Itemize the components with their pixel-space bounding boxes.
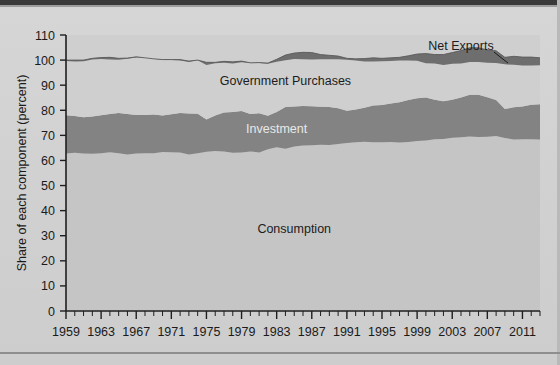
x-tick-label: 1995	[368, 325, 396, 339]
consumption-label: Consumption	[257, 222, 331, 236]
x-tick-label: 1999	[403, 325, 431, 339]
government-purchases-label: Government Purchases	[220, 74, 351, 88]
investment-label: Investment	[246, 122, 308, 136]
y-axis-tick-labels: 0102030405060708090100110	[34, 29, 55, 319]
y-tick-label: 20	[41, 254, 55, 268]
x-tick-label: 1959	[52, 325, 80, 339]
y-tick-label: 100	[34, 54, 55, 68]
x-axis-tick-labels: 1959196319671971197519791983198719911995…	[52, 325, 536, 339]
figure-canvas: 0102030405060708090100110 19591963196719…	[0, 0, 560, 365]
x-tick-label: 1979	[228, 325, 256, 339]
y-tick-label: 50	[41, 179, 55, 193]
y-tick-label: 0	[48, 305, 55, 319]
x-tick-label: 2011	[509, 325, 536, 339]
y-tick-label: 70	[41, 129, 55, 143]
x-tick-label: 1991	[333, 325, 361, 339]
y-tick-label: 30	[41, 229, 55, 243]
x-tick-label: 1983	[263, 325, 291, 339]
x-tick-label: 1967	[122, 325, 150, 339]
y-tick-label: 80	[41, 104, 55, 118]
x-axis-minor-ticks	[66, 311, 540, 319]
y-tick-label: 90	[41, 79, 55, 93]
y-axis-title: Share of each component (percent)	[15, 75, 29, 272]
net-exports-label: Net Exports	[428, 39, 493, 53]
stacked-area-chart: 0102030405060708090100110 19591963196719…	[0, 0, 560, 365]
x-tick-label: 1975	[193, 325, 221, 339]
x-tick-label: 1963	[87, 325, 115, 339]
x-tick-label: 2003	[438, 325, 466, 339]
y-axis-ticks	[60, 35, 66, 311]
y-tick-label: 110	[35, 29, 55, 43]
x-tick-label: 1971	[157, 325, 185, 339]
x-tick-label: 1987	[298, 325, 326, 339]
y-tick-label: 60	[41, 154, 55, 168]
y-tick-label: 40	[41, 204, 55, 218]
x-tick-label: 2007	[473, 325, 501, 339]
y-tick-label: 10	[41, 279, 55, 293]
